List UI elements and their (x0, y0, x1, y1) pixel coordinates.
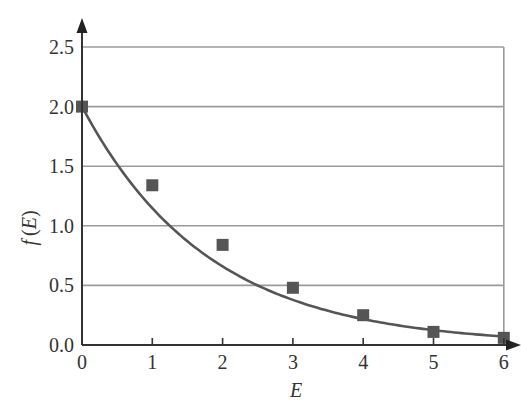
gridlines (82, 47, 504, 285)
x-tick-label: 0 (77, 351, 87, 373)
y-tick-label: 1.0 (49, 215, 74, 237)
y-tick-label: 0.5 (49, 274, 74, 296)
fit-curve-line (82, 107, 504, 337)
x-tick-label: 5 (429, 351, 439, 373)
y-axis-label: f(E) (18, 210, 41, 245)
x-tick-label: 6 (499, 351, 509, 373)
chart: 0123456 0.00.51.01.52.02.5 E f(E) (0, 0, 521, 413)
y-tick-label: 2.0 (49, 96, 74, 118)
x-tick-label: 4 (358, 351, 368, 373)
data-point-square (287, 282, 299, 294)
data-points (76, 101, 510, 344)
fit-curve (82, 107, 504, 337)
data-point-square (428, 326, 440, 338)
data-point-square (217, 239, 229, 251)
y-ticks: 0.00.51.01.52.02.5 (49, 36, 74, 356)
y-axis-arrow-icon (77, 18, 88, 33)
y-tick-label: 2.5 (49, 36, 74, 58)
x-tick-label: 2 (218, 351, 228, 373)
x-tick-label: 3 (288, 351, 298, 373)
y-tick-label: 1.5 (49, 155, 74, 177)
x-tick-label: 1 (147, 351, 157, 373)
x-ticks: 0123456 (77, 338, 509, 373)
y-tick-label: 0.0 (49, 334, 74, 356)
x-axis-label: E (289, 379, 302, 401)
data-point-square (357, 309, 369, 321)
data-point-square (146, 179, 158, 191)
x-axis-arrow-icon (506, 340, 521, 351)
svg-text:f(E): f(E) (18, 210, 41, 245)
